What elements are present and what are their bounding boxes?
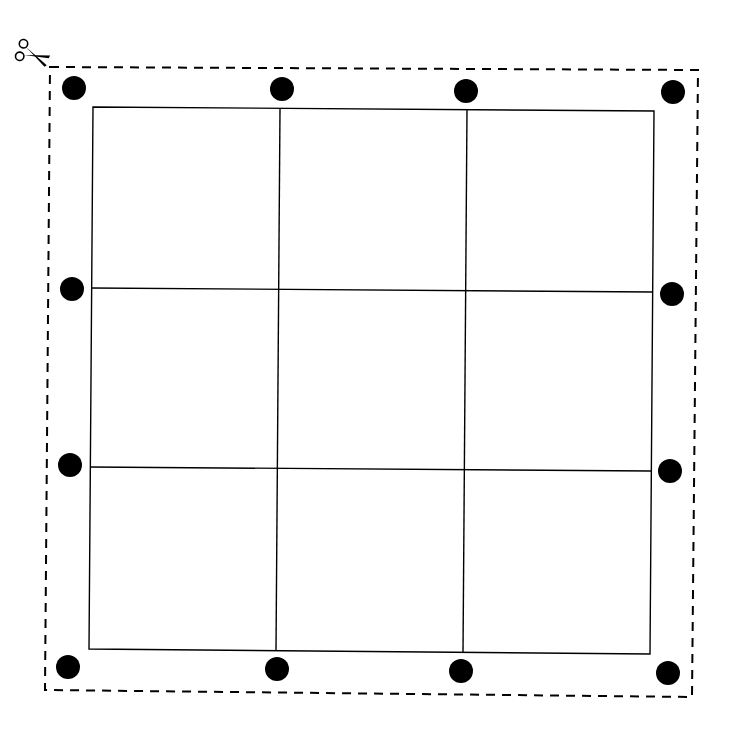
grid-line [90,467,651,471]
punch-hole-dot [656,661,680,685]
punch-hole-dot [449,659,473,683]
punch-hole-dot [60,277,84,301]
punch-hole-dot [660,282,684,306]
grid-line [276,109,280,651]
punch-hole-dot [661,80,685,104]
dashed-cut-border [45,67,698,697]
diagram-canvas [0,0,730,732]
punch-hole-dot [454,79,478,103]
punch-hole-dot [56,655,80,679]
punch-hole-dot [62,76,86,100]
punch-hole-dot [270,77,294,101]
punch-hole-dot [658,459,682,483]
punch-hole-dot [58,453,82,477]
grid-lines [90,109,653,652]
scissors-icon [15,39,52,68]
grid-line [91,288,653,292]
punch-hole-dot [265,657,289,681]
grid-line [463,110,467,652]
grid-outer-border [89,107,654,654]
punch-hole-dots [56,76,685,685]
